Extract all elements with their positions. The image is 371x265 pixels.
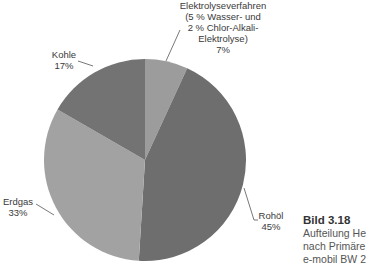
figure-caption: Bild 3.18 Aufteilung He nach Primäre e-m…	[303, 213, 371, 265]
label-elektrolyse-line2: (5 % Wasser- und	[168, 11, 278, 22]
caption-title: Bild 3.18	[303, 213, 371, 227]
label-erdgas-name: Erdgas	[0, 196, 36, 207]
label-elektrolyse: Elektrolyseverfahren (5 % Wasser- und 2 …	[168, 0, 278, 55]
label-kohle: Kohle 17%	[46, 49, 82, 71]
label-elektrolyse-line1: Elektrolyseverfahren	[168, 0, 278, 11]
label-rohoel-pct: 45%	[256, 221, 286, 232]
label-elektrolyse-line3: 2 % Chlor-Alkali-	[168, 22, 278, 33]
label-elektrolyse-line4: Elektrolyse)	[168, 33, 278, 44]
label-erdgas-pct: 33%	[0, 207, 36, 218]
caption-line-2: nach Primäre	[303, 240, 371, 253]
label-rohoel: Rohöl 45%	[256, 210, 286, 232]
label-elektrolyse-pct: 7%	[168, 44, 278, 55]
leader-line-erdgas	[36, 204, 54, 215]
label-erdgas: Erdgas 33%	[0, 196, 36, 218]
caption-line-1: Aufteilung He	[303, 227, 371, 240]
label-kohle-pct: 17%	[46, 60, 82, 71]
caption-line-3: e-mobil BW 2	[303, 253, 371, 265]
label-rohoel-name: Rohöl	[256, 210, 286, 221]
label-kohle-name: Kohle	[46, 49, 82, 60]
